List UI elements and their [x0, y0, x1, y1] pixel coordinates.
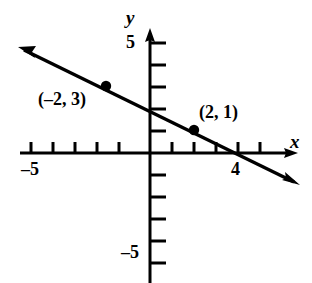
y-axis-label: y [126, 8, 134, 27]
data-point-marker [189, 125, 199, 135]
coordinate-plane-svg [0, 0, 312, 283]
y-axis [145, 28, 166, 283]
y-tick-label-negative-5: –5 [121, 243, 139, 261]
point-label-minus2-3: (–2, 3) [38, 90, 86, 108]
x-tick-label-negative-5: –5 [21, 160, 39, 178]
x-axis [20, 142, 298, 158]
data-point-marker [101, 81, 111, 91]
y-tick-label-5: 5 [126, 33, 135, 51]
graph-figure: y x –5 4 5 –5 (–2, 3) (2, 1) [0, 0, 312, 283]
plotted-line [18, 46, 300, 185]
x-axis-label: x [290, 132, 300, 151]
line-segment [24, 50, 294, 182]
y-axis-arrowhead-icon [145, 28, 155, 42]
point-label-2-1: (2, 1) [199, 103, 238, 121]
x-tick-label-4: 4 [231, 160, 240, 178]
line-left-arrowhead-icon [18, 46, 36, 58]
